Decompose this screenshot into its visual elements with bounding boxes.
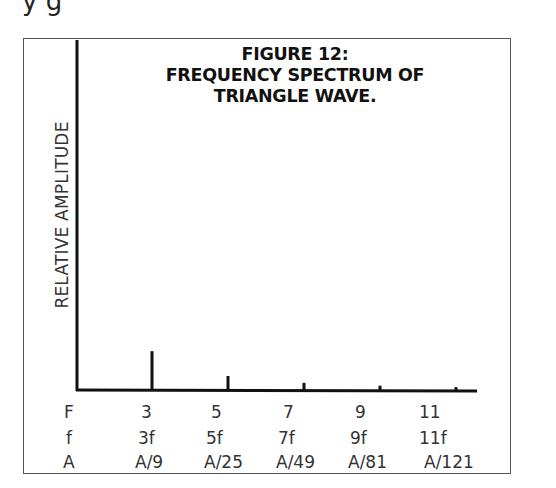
spectrum-lines (152, 351, 456, 390)
spectrum-plot (0, 0, 556, 488)
x-axis (76, 390, 477, 391)
